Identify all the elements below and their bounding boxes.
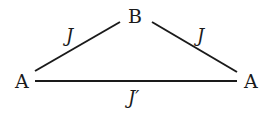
edge-left-right-label: J′ xyxy=(124,87,139,108)
edge-top-right xyxy=(152,22,237,72)
node-right-label: A xyxy=(243,70,258,92)
node-top-label: B xyxy=(128,5,142,27)
node-left-label: A xyxy=(14,70,29,92)
edge-top-right-label: J xyxy=(193,25,206,46)
edge-left-top xyxy=(35,22,120,71)
triangle-diagram: A B A J J J′ xyxy=(0,0,280,114)
edge-left-top-label: J xyxy=(62,25,75,46)
